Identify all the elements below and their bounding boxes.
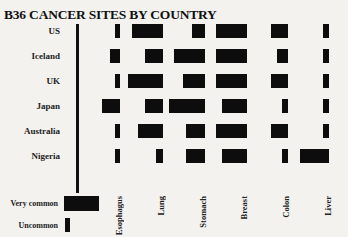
- bar-nigeria-liver: [300, 149, 329, 163]
- bar-japan-breast: [222, 99, 247, 113]
- legend-swatch-very-common: [64, 196, 99, 211]
- row-label-japan: Japan: [0, 101, 60, 111]
- bar-nigeria-breast: [222, 149, 247, 163]
- bar-nigeria-stomach: [186, 149, 205, 163]
- bar-australia-liver: [323, 124, 329, 138]
- column-label-lung: Lung: [156, 196, 166, 215]
- bar-australia-breast: [216, 124, 247, 138]
- bar-us-colon: [271, 24, 288, 38]
- column-label-stomach: Stomach: [198, 196, 208, 228]
- column-label-colon: Colon: [281, 196, 291, 218]
- bar-uk-lung: [128, 74, 163, 88]
- bar-nigeria-lung: [156, 149, 163, 163]
- column-label-liver: Liver: [323, 196, 333, 216]
- bar-australia-lung: [138, 124, 163, 138]
- bar-us-lung: [132, 24, 163, 38]
- bar-japan-lung: [145, 99, 163, 113]
- row-label-us: US: [0, 26, 60, 36]
- bar-iceland-breast: [216, 49, 247, 63]
- bar-australia-esophagus: [115, 124, 120, 138]
- row-label-iceland: Iceland: [0, 51, 60, 61]
- bar-uk-breast: [216, 74, 247, 88]
- bar-us-stomach: [192, 24, 205, 38]
- row-label-nigeria: Nigeria: [0, 151, 60, 161]
- vertical-axis-line: [76, 24, 79, 193]
- chart-title: B36 CANCER SITES BY COUNTRY: [4, 7, 217, 23]
- bar-iceland-liver: [323, 49, 329, 63]
- bar-japan-esophagus: [102, 99, 120, 113]
- bar-uk-liver: [323, 74, 329, 88]
- bar-uk-stomach: [183, 74, 205, 88]
- bar-us-breast: [216, 24, 247, 38]
- bar-us-liver: [323, 24, 329, 38]
- bar-uk-esophagus: [115, 74, 120, 88]
- bar-iceland-lung: [145, 49, 163, 63]
- bar-japan-colon: [282, 99, 288, 113]
- column-label-esophagus: Esophagus: [114, 196, 124, 235]
- bar-iceland-esophagus: [110, 49, 120, 63]
- bar-us-esophagus: [115, 24, 120, 38]
- row-label-uk: UK: [0, 76, 60, 86]
- row-label-australia: Australia: [0, 126, 60, 136]
- legend-label-very-common: Very common: [2, 199, 58, 208]
- bar-iceland-colon: [277, 49, 288, 63]
- bar-uk-colon: [271, 74, 288, 88]
- bar-australia-stomach: [186, 124, 205, 138]
- bar-japan-liver: [323, 99, 329, 113]
- legend-label-uncommon: Uncommon: [2, 221, 58, 230]
- bar-nigeria-esophagus: [115, 149, 120, 163]
- bar-iceland-stomach: [174, 49, 205, 63]
- bar-japan-stomach: [169, 99, 205, 113]
- legend-swatch-uncommon: [65, 218, 70, 232]
- bar-australia-colon: [271, 124, 288, 138]
- bar-nigeria-colon: [282, 149, 288, 163]
- column-label-breast: Breast: [239, 196, 249, 219]
